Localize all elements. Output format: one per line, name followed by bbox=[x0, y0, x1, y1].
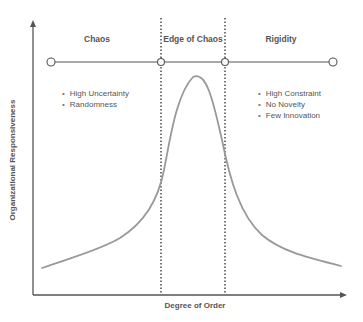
region-label-edge-of-chaos: Edge of Chaos bbox=[163, 34, 223, 44]
chaos-bullet-list: High Uncertainty Randomness bbox=[62, 88, 129, 110]
spectrum-node-chaos-edge bbox=[158, 59, 165, 66]
spectrum-node-edge-rigidity bbox=[222, 59, 229, 66]
rigidity-bullet: High Constraint bbox=[258, 88, 321, 99]
spectrum-start-node bbox=[47, 58, 55, 66]
chaos-bullet: High Uncertainty bbox=[62, 88, 129, 99]
region-label-chaos: Chaos bbox=[84, 34, 110, 44]
x-axis-arrow-icon bbox=[340, 292, 347, 298]
diagram-canvas bbox=[0, 0, 363, 322]
chaos-bullet: Randomness bbox=[62, 99, 129, 110]
rigidity-bullet-list: High Constraint No Novelty Few Innovatio… bbox=[258, 88, 321, 121]
rigidity-bullet: No Novelty bbox=[258, 99, 321, 110]
x-axis-label: Degree of Order bbox=[165, 301, 226, 310]
y-axis-arrow-icon bbox=[30, 20, 36, 27]
y-axis-label: Organizational Responsiveness bbox=[8, 100, 17, 221]
spectrum-end-node bbox=[329, 58, 337, 66]
rigidity-bullet: Few Innovation bbox=[258, 110, 321, 121]
region-label-rigidity: Rigidity bbox=[265, 34, 296, 44]
